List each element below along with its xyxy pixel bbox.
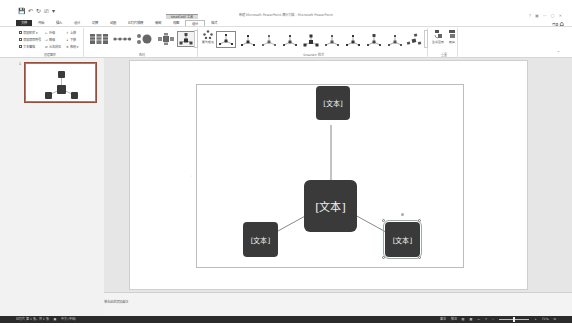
style-thumb[interactable] [323, 33, 343, 47]
move-down-icon: ↓ [66, 38, 69, 42]
style-thumb[interactable] [405, 33, 425, 47]
slide-thumbnail-1[interactable] [24, 62, 97, 103]
convert-button[interactable]: 转换 [444, 30, 460, 44]
style-thumb[interactable] [281, 33, 301, 47]
spellcheck-icon[interactable]: ▣ [54, 316, 57, 323]
change-colors-button[interactable]: 更改颜色 [200, 30, 216, 44]
layouts-label: 布局 [86, 53, 197, 57]
fit-to-window-icon[interactable]: ⊡ [553, 316, 556, 323]
layout-icon: ⚟ [66, 45, 69, 49]
notes-button[interactable]: 备注 [440, 316, 446, 323]
style-thumb-selected[interactable] [216, 31, 236, 48]
style-thumb[interactable] [365, 33, 385, 47]
vertical-list-layout-icon [90, 34, 108, 44]
zoom-in-icon[interactable]: + [534, 316, 537, 323]
slide-sorter-view-icon[interactable]: ▦ [469, 316, 472, 323]
radial-layout-icon [179, 33, 193, 45]
convert-label: 转换 [449, 40, 455, 44]
smartart-node-bottom-left[interactable]: [文本] [243, 222, 278, 257]
status-bar-left: 幻灯片 第 1 张，共 1 张 ▣ 中文(中国) [16, 316, 76, 323]
thumbnail-content [25, 63, 96, 102]
style-thumb[interactable] [260, 33, 280, 47]
move-up-button[interactable]: ↑上移 [66, 30, 76, 35]
reset-graphic-label: 重设图形 [432, 40, 444, 44]
close-icon[interactable]: ✕ [559, 13, 562, 18]
language-status[interactable]: 中文(中国) [61, 316, 75, 323]
resize-handle-ne[interactable] [418, 219, 421, 222]
slide-editing-pane: [文本] [文本] [文本] [文本] ‹ [104, 58, 572, 316]
reading-view-icon[interactable]: ▭ [477, 316, 480, 323]
layouts-gallery-scroll[interactable] [194, 30, 198, 48]
resize-handle-sw[interactable] [382, 256, 385, 259]
add-bullet-button[interactable]: 添加项目符号 [19, 37, 41, 42]
thumbnail-radial-diagram [26, 64, 97, 103]
style-radial-icon [344, 33, 362, 47]
ribbon-display-icon[interactable]: ▣ [535, 13, 539, 18]
text-pane-icon [19, 45, 22, 48]
smartart-graphic-frame[interactable]: [文本] [文本] [文本] [文本] [196, 84, 464, 268]
smartart-node-bottom-right-selected[interactable]: [文本] [385, 222, 420, 257]
layout-hierarchy[interactable] [155, 31, 177, 47]
style-radial-icon [239, 33, 257, 47]
title-bar: 💾 ↶ ↻ ⎚ ▾ 新建 Microsoft PowerPoint 演示文稿 -… [0, 0, 572, 18]
window-controls: ? ▣ — ▢ ✕ [529, 13, 562, 18]
promote-button[interactable]: ←升级 [45, 30, 55, 35]
right-to-left-button[interactable]: ⇄从右向左 [45, 44, 61, 49]
notes-pane[interactable]: 单击此处添加备注 [104, 292, 572, 316]
notes-placeholder[interactable]: 单击此处添加备注 [104, 299, 128, 304]
comments-button[interactable]: 批注 [451, 316, 457, 323]
add-shape-icon [19, 31, 22, 34]
smartart-styles-group: 更改颜色 SmartArt 样式 [200, 28, 428, 58]
layout-process[interactable] [111, 31, 133, 47]
hierarchy-layout-icon [157, 33, 175, 45]
smartart-node-center[interactable]: [文本] [304, 180, 357, 232]
zoom-out-icon[interactable]: − [492, 316, 495, 323]
create-graphic-label: 创建图形 [16, 53, 83, 57]
convert-icon [448, 30, 457, 39]
style-thumb[interactable] [344, 33, 364, 47]
text-pane-button[interactable]: 文本窗格 [19, 44, 35, 49]
resize-handle-se[interactable] [418, 256, 421, 259]
layout-cycle[interactable] [133, 31, 155, 47]
normal-view-icon[interactable]: ▤ [462, 316, 465, 323]
move-down-button[interactable]: ↓下移 [66, 37, 76, 42]
style-radial-icon [386, 33, 404, 47]
slide-count-status: 幻灯片 第 1 张，共 1 张 [16, 316, 49, 323]
styles-gallery-scroll[interactable] [424, 30, 428, 48]
layout-button[interactable]: ⚟布局 ▾ [66, 44, 78, 49]
zoom-slider-thumb[interactable] [513, 317, 515, 322]
zoom-level[interactable]: 71% [542, 316, 549, 323]
resize-handle-nw[interactable] [382, 219, 385, 222]
style-thumb[interactable] [302, 33, 322, 47]
collapse-ribbon-icon[interactable]: ⌃ [557, 50, 560, 55]
status-bar-right: 备注 批注 ▤ ▦ ▭ ▯ − + 71% ⊡ [440, 316, 556, 323]
help-icon[interactable]: ? [529, 13, 531, 18]
text-pane-toggle-icon[interactable]: ‹ [191, 174, 192, 178]
slide-thumbnail-pane: 1 [0, 58, 104, 316]
layout-radial-selected[interactable] [177, 31, 195, 47]
style-radial-icon [217, 32, 235, 46]
style-thumb[interactable] [386, 33, 406, 47]
add-shape-button[interactable]: 添加形状 ▾ [19, 30, 38, 35]
slideshow-view-icon[interactable]: ▯ [485, 316, 487, 323]
process-layout-icon [113, 36, 131, 42]
style-thumb[interactable] [239, 33, 259, 47]
reset-group: 重设图形 转换 重置 [430, 28, 458, 58]
maximize-icon[interactable]: ▢ [551, 13, 555, 18]
slide-canvas[interactable]: [文本] [文本] [文本] [文本] ‹ [129, 60, 528, 290]
reset-label: 重置 [430, 53, 457, 57]
rotation-handle[interactable] [401, 213, 404, 216]
change-colors-label: 更改颜色 [202, 40, 214, 44]
layouts-group: 布局 [86, 28, 198, 58]
minimize-icon[interactable]: — [543, 13, 547, 18]
style-radial-icon [365, 33, 383, 47]
move-up-icon: ↑ [66, 31, 69, 35]
style-3d-radial-icon [405, 33, 423, 47]
style-radial-icon [260, 33, 278, 47]
zoom-slider[interactable] [499, 319, 529, 320]
layout-vertical-list[interactable] [88, 31, 110, 47]
smartart-node-top[interactable]: [文本] [316, 86, 350, 120]
reset-graphic-icon [434, 30, 443, 39]
workspace: 1 [ [0, 58, 572, 316]
demote-button[interactable]: →降级 [45, 37, 55, 42]
